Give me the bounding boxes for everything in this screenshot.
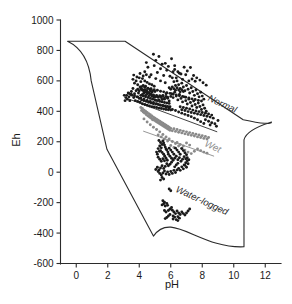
data-point (143, 117, 146, 120)
data-point (157, 98, 160, 101)
data-point (201, 111, 204, 114)
data-point (190, 152, 193, 155)
series-normal (123, 53, 220, 128)
data-point (154, 168, 157, 171)
data-point (156, 89, 159, 92)
data-point (146, 99, 149, 102)
data-point (193, 150, 196, 153)
data-point (149, 100, 152, 103)
data-point (202, 81, 205, 84)
data-point (202, 122, 205, 125)
data-point (165, 162, 168, 165)
data-point (199, 149, 202, 152)
data-point (160, 146, 163, 149)
data-point (179, 169, 182, 172)
data-point (198, 95, 201, 98)
data-point (195, 106, 198, 109)
data-point (202, 114, 205, 117)
data-point (143, 70, 146, 73)
data-point (179, 213, 182, 216)
data-point (141, 77, 144, 80)
data-point (150, 91, 153, 94)
data-point (195, 89, 198, 92)
data-point (174, 171, 177, 174)
data-point (172, 93, 175, 96)
data-point (148, 115, 151, 118)
data-point (201, 134, 204, 137)
data-point (187, 79, 190, 82)
data-point (177, 111, 180, 114)
data-point (209, 124, 212, 127)
data-point (166, 204, 169, 207)
data-point (184, 73, 187, 76)
data-point (157, 147, 160, 150)
data-point (185, 166, 188, 169)
data-point (139, 80, 142, 83)
data-point (187, 110, 190, 113)
data-point (161, 105, 164, 108)
data-point (191, 78, 194, 81)
data-point (152, 53, 155, 56)
data-point (176, 98, 179, 101)
data-point (187, 96, 190, 99)
data-point (146, 66, 149, 69)
data-point (163, 170, 166, 173)
data-point (171, 172, 174, 175)
data-point (196, 148, 199, 151)
y-tick-label: 600 (37, 75, 54, 86)
data-point (168, 107, 171, 110)
y-tick-label: 200 (37, 136, 54, 147)
data-point (168, 100, 171, 103)
data-point (199, 120, 202, 123)
data-point (169, 127, 172, 130)
data-point (202, 151, 205, 154)
data-point (203, 107, 206, 110)
data-point (197, 99, 200, 102)
data-point (182, 106, 185, 109)
data-point (153, 85, 156, 88)
data-point (194, 98, 197, 101)
data-point (162, 178, 165, 181)
data-point (132, 74, 135, 77)
data-point (171, 140, 174, 143)
data-point (170, 57, 173, 60)
data-point (185, 84, 188, 87)
data-point (153, 64, 156, 67)
x-tick-label: 0 (73, 270, 79, 281)
data-point (146, 121, 149, 124)
data-point (182, 90, 185, 93)
data-point (182, 130, 185, 133)
data-point (152, 101, 155, 104)
data-point (174, 89, 177, 92)
x-axis-title: pH (165, 278, 179, 290)
data-point (193, 94, 196, 97)
series-water-logged (154, 139, 191, 222)
data-point (169, 189, 172, 192)
data-point (188, 208, 191, 211)
y-tick-label: -600 (33, 258, 53, 269)
data-point (181, 100, 184, 103)
data-point (161, 63, 164, 66)
data-point (195, 110, 198, 113)
data-point (136, 95, 139, 98)
data-point (191, 97, 194, 100)
data-point (167, 65, 170, 68)
data-point (196, 113, 199, 116)
data-point (200, 108, 203, 111)
y-tick-label: -400 (33, 228, 53, 239)
x-tick-label: 8 (199, 270, 205, 281)
data-point (140, 85, 143, 88)
zone-label-normal: Normal (206, 92, 239, 115)
data-point (182, 145, 185, 148)
data-point (154, 77, 157, 80)
data-point (185, 130, 188, 133)
data-point (135, 76, 138, 79)
data-point (157, 55, 160, 58)
data-point (207, 120, 210, 123)
data-point (164, 81, 167, 84)
data-point (172, 80, 175, 83)
data-point (164, 62, 167, 65)
data-point (158, 130, 161, 133)
data-point (133, 94, 136, 97)
data-point (148, 76, 151, 79)
